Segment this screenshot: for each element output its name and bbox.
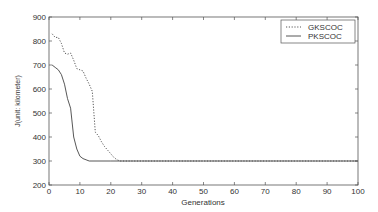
legend: GKSCOCPKSCOC bbox=[281, 20, 355, 43]
x-tick-label: 100 bbox=[351, 187, 365, 196]
x-tick-label: 40 bbox=[168, 187, 177, 196]
legend-label: PKSCOC bbox=[308, 32, 342, 41]
series-line-pkscoc bbox=[52, 65, 358, 161]
y-tick-label: 600 bbox=[33, 85, 47, 94]
line-chart: 0102030405060708090100200300400500600700… bbox=[0, 0, 378, 212]
y-tick-label: 900 bbox=[33, 13, 47, 22]
legend-label: GKSCOC bbox=[308, 23, 343, 32]
y-tick-label: 300 bbox=[33, 157, 47, 166]
x-axis-label: Generations bbox=[181, 198, 225, 207]
y-tick-label: 500 bbox=[33, 109, 47, 118]
x-tick-label: 30 bbox=[137, 187, 146, 196]
y-tick-label: 700 bbox=[33, 61, 47, 70]
y-axis-label: J(unit: kilometer) bbox=[14, 75, 22, 127]
x-tick-label: 90 bbox=[323, 187, 332, 196]
y-tick-label: 400 bbox=[33, 133, 47, 142]
x-tick-label: 70 bbox=[261, 187, 270, 196]
y-tick-label: 800 bbox=[33, 37, 47, 46]
series-line-gkscoc bbox=[52, 34, 358, 161]
x-tick-label: 20 bbox=[106, 187, 115, 196]
data-lines bbox=[52, 34, 358, 161]
x-tick-label: 50 bbox=[199, 187, 208, 196]
y-tick-label: 200 bbox=[33, 181, 47, 190]
x-tick-label: 60 bbox=[230, 187, 239, 196]
x-tick-label: 80 bbox=[292, 187, 301, 196]
x-tick-label: 10 bbox=[75, 187, 84, 196]
x-tick-label: 0 bbox=[47, 187, 52, 196]
